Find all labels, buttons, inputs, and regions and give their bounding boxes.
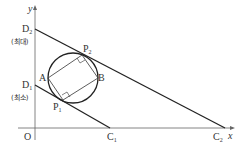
point-d2-note: (최대)	[11, 37, 29, 46]
point-b-label: B	[98, 72, 105, 83]
point-d1-label: D1	[22, 79, 32, 91]
point-p2-label: P2	[83, 43, 92, 55]
line-d2-c2	[35, 29, 225, 128]
inscribed-rectangle	[48, 55, 98, 100]
point-a-label: A	[39, 72, 47, 83]
circle	[48, 53, 98, 103]
right-angle-mark-p2	[77, 58, 85, 63]
point-d1-note: (최소)	[11, 93, 29, 102]
y-axis-arrow-icon	[33, 5, 37, 10]
geometry-figure: y x O D2 (최대) D1 (최소) A B P2 P1 C1 C2	[0, 0, 240, 154]
point-d2-label: D2	[22, 23, 32, 35]
point-c1-label: C1	[107, 131, 117, 143]
point-p1-label: P1	[53, 101, 62, 113]
x-axis-label: x	[227, 130, 233, 141]
origin-label: O	[24, 131, 31, 142]
point-c2-label: C2	[213, 131, 223, 143]
line-d1-c1	[35, 85, 110, 128]
y-axis-label: y	[27, 3, 33, 14]
diagram: y x O D2 (최대) D1 (최소) A B P2 P1 C1 C2	[0, 0, 240, 154]
